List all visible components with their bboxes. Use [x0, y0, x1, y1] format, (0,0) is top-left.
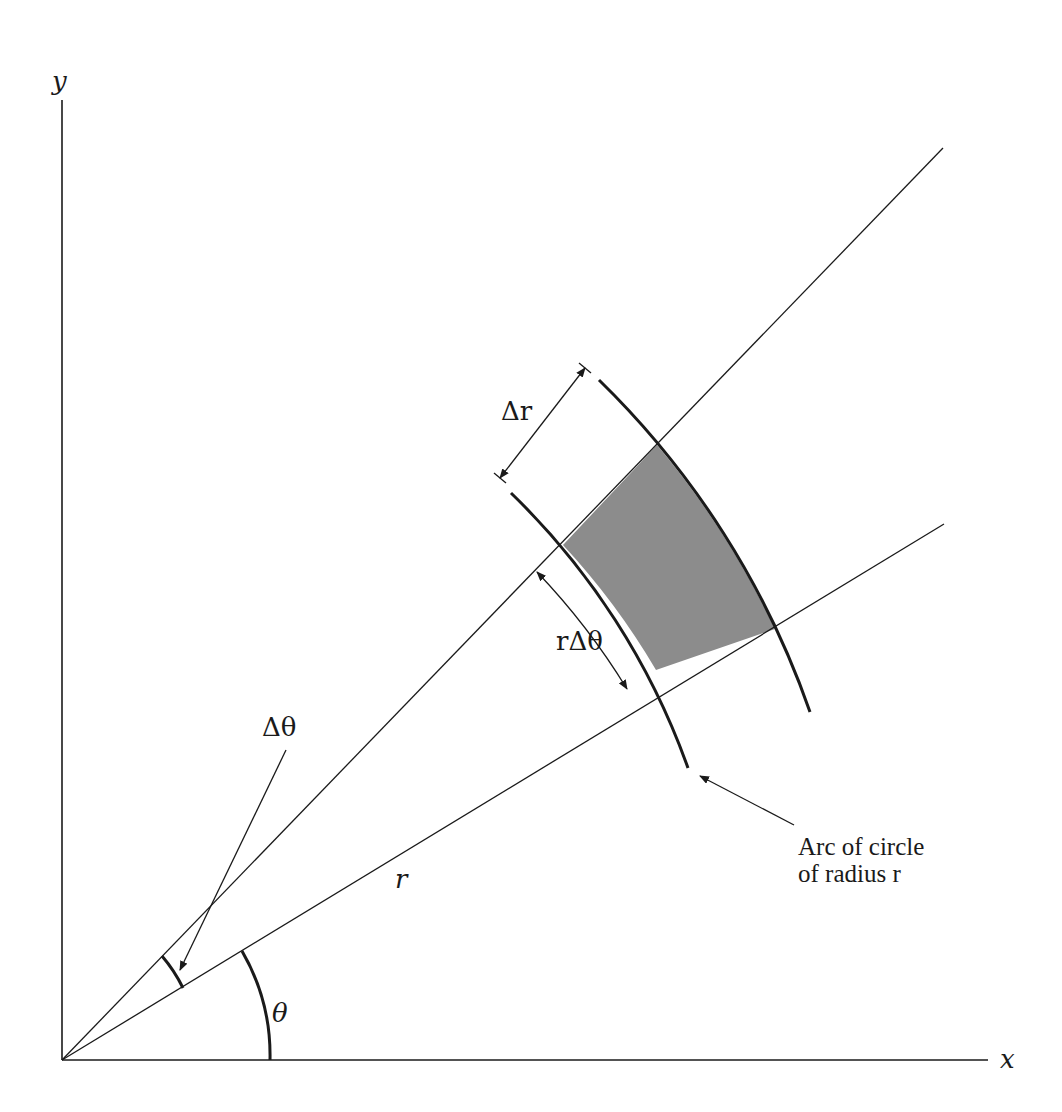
arc-caption-line2: of radius r	[798, 860, 924, 887]
delta-theta-label: Δθ	[262, 714, 296, 740]
polar-diagram	[0, 0, 1062, 1112]
delta-r-label: Δr	[501, 398, 532, 424]
arc-caption-line1: Arc of circle	[798, 833, 924, 860]
delta-r-text: Δr	[501, 396, 532, 426]
theta-label: θ	[272, 1000, 288, 1026]
delta-theta-pointer	[180, 750, 286, 970]
delta-r-tick-top	[579, 363, 591, 373]
y-axis-label: y	[52, 68, 67, 94]
arc-caption: Arc of circle of radius r	[798, 833, 924, 887]
arc-caption-pointer	[700, 776, 794, 825]
delta-theta-arc	[162, 956, 183, 988]
delta-r-tick-bottom	[494, 473, 506, 483]
r-delta-theta-label: rΔθ	[556, 628, 603, 654]
upper-ray	[62, 148, 943, 1060]
r-label: r	[395, 866, 407, 892]
theta-arc	[242, 951, 270, 1060]
x-axis-label: x	[1000, 1046, 1015, 1072]
